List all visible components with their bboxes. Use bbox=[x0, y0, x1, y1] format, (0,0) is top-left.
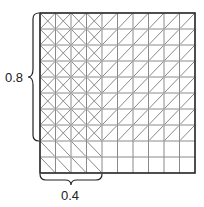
hatch-forward bbox=[165, 110, 179, 124]
hatch-back bbox=[88, 158, 102, 172]
hatch-forward bbox=[181, 14, 195, 28]
hatch-forward bbox=[103, 110, 117, 124]
hatch-forward bbox=[103, 126, 117, 140]
hatch-forward bbox=[119, 110, 133, 124]
hatch-forward bbox=[165, 14, 179, 28]
hatch-forward bbox=[134, 110, 148, 124]
hatch-back bbox=[57, 158, 71, 172]
hatch-forward bbox=[119, 14, 133, 28]
hatch-forward bbox=[150, 94, 164, 108]
hatch-forward bbox=[181, 126, 195, 140]
hatch-forward bbox=[103, 62, 117, 76]
hatch-forward bbox=[150, 126, 164, 140]
hatch-forward bbox=[181, 110, 195, 124]
hatch-forward bbox=[134, 46, 148, 60]
hatch-forward bbox=[181, 30, 195, 44]
hatch-back bbox=[41, 142, 55, 156]
hatch-forward bbox=[150, 110, 164, 124]
hatch-forward bbox=[103, 30, 117, 44]
hatch-back bbox=[57, 142, 71, 156]
hatch-forward bbox=[134, 62, 148, 76]
hatch-forward bbox=[181, 78, 195, 92]
area-model-diagram: 0.8 0.4 bbox=[0, 0, 204, 207]
hatch-forward bbox=[165, 62, 179, 76]
hatch-forward bbox=[134, 14, 148, 28]
hatch-forward bbox=[119, 78, 133, 92]
hatch-forward bbox=[119, 30, 133, 44]
hatch-forward bbox=[119, 94, 133, 108]
hatch-forward bbox=[103, 14, 117, 28]
horizontal-label: 0.4 bbox=[61, 188, 79, 203]
hatch-forward bbox=[150, 78, 164, 92]
hatch-forward bbox=[103, 94, 117, 108]
hatch-back bbox=[72, 158, 86, 172]
hatch-forward bbox=[181, 62, 195, 76]
hatch-forward bbox=[119, 46, 133, 60]
horizontal-brace bbox=[40, 174, 102, 185]
hatch-forward bbox=[165, 46, 179, 60]
hatch-back bbox=[88, 142, 102, 156]
hatch-forward bbox=[181, 46, 195, 60]
hatch-forward bbox=[150, 62, 164, 76]
hatch-forward bbox=[103, 46, 117, 60]
hatch-forward bbox=[165, 30, 179, 44]
hatch-back bbox=[72, 142, 86, 156]
hatch-forward bbox=[150, 30, 164, 44]
vertical-label: 0.8 bbox=[5, 70, 23, 85]
hatch-forward bbox=[150, 14, 164, 28]
hatch-forward bbox=[134, 78, 148, 92]
hatch-forward bbox=[134, 94, 148, 108]
hatch-forward bbox=[150, 46, 164, 60]
hatch-forward bbox=[134, 30, 148, 44]
hatch-forward bbox=[119, 126, 133, 140]
hatch-back bbox=[41, 158, 55, 172]
hatch-forward bbox=[134, 126, 148, 140]
hatch-forward bbox=[165, 126, 179, 140]
hatch-forward bbox=[119, 62, 133, 76]
hatch-forward bbox=[103, 78, 117, 92]
hatch-forward bbox=[165, 94, 179, 108]
hatch-forward bbox=[165, 78, 179, 92]
vertical-brace bbox=[28, 13, 39, 141]
hatch-forward bbox=[181, 94, 195, 108]
